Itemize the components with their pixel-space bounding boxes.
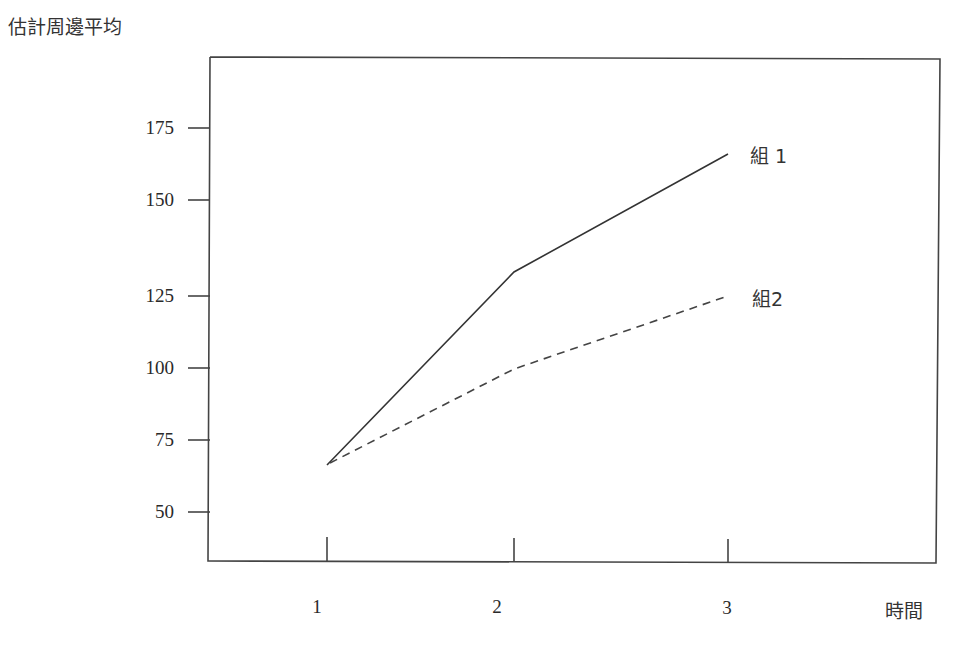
series-group1-line bbox=[327, 154, 728, 465]
x-tick-label: 1 bbox=[302, 596, 332, 618]
x-tick-label: 2 bbox=[482, 596, 512, 618]
series-label-group1-text: 組 1 bbox=[750, 145, 787, 167]
series-group2-line bbox=[330, 296, 728, 463]
series-label-group1: 組 1 bbox=[750, 141, 787, 168]
x-tick-label: 3 bbox=[712, 597, 742, 619]
y-tick-label: 50 bbox=[114, 501, 174, 523]
y-tick-label: 150 bbox=[114, 189, 174, 211]
y-tick-label: 100 bbox=[114, 357, 174, 379]
y-tick-label: 75 bbox=[114, 429, 174, 451]
x-axis-ticks bbox=[327, 537, 728, 563]
series-label-group2: 組2 bbox=[752, 284, 783, 311]
plot-frame bbox=[208, 57, 940, 563]
series-label-group2-text: 組2 bbox=[752, 288, 783, 310]
chart-plot-area bbox=[0, 0, 977, 654]
y-tick-label: 125 bbox=[114, 285, 174, 307]
x-axis-title: 時間 bbox=[885, 596, 923, 623]
y-axis-ticks bbox=[188, 128, 210, 512]
y-tick-label: 175 bbox=[114, 117, 174, 139]
